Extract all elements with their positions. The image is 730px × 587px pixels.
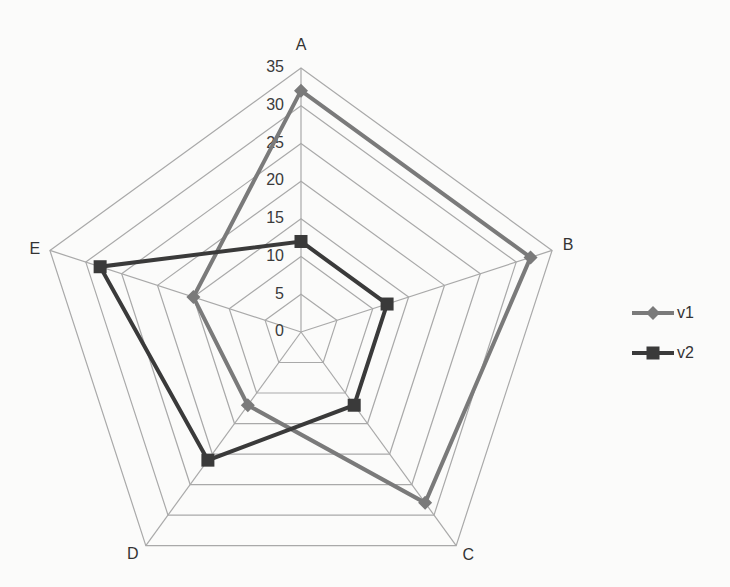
axis-tick-label: 30	[266, 96, 284, 113]
series-line-v2	[100, 241, 387, 460]
axis-tick-labels: 05101520253035	[266, 58, 284, 339]
axis-spoke	[50, 250, 301, 332]
category-label-e: E	[30, 240, 41, 257]
data-point-v2	[381, 298, 394, 311]
axis-tick-label: 20	[266, 171, 284, 188]
axis-tick-label: 0	[275, 322, 284, 339]
series-v2	[94, 235, 394, 467]
category-label-b: B	[563, 236, 574, 253]
data-point-v2	[295, 235, 308, 248]
data-point-v2	[348, 399, 361, 412]
radar-chart-canvas: 05101520253035 ABCDE v1v2	[0, 0, 730, 587]
radar-chart: 05101520253035 ABCDE v1v2	[0, 0, 730, 587]
axis-tick-label: 15	[266, 209, 284, 226]
legend-marker-v1	[646, 306, 660, 320]
series-line-v1	[193, 91, 530, 503]
legend-label: v1	[677, 304, 694, 321]
axis-tick-label: 35	[266, 58, 284, 75]
legend-item-v1: v1	[632, 304, 694, 321]
axis-tick-label: 5	[275, 285, 284, 302]
category-label-c: C	[462, 546, 474, 563]
data-point-v2	[94, 260, 107, 273]
legend-marker-v2	[647, 347, 660, 360]
legend: v1v2	[632, 304, 694, 361]
axis-tick-label: 10	[266, 247, 284, 264]
data-point-v1	[186, 290, 200, 304]
category-label-a: A	[296, 36, 307, 53]
category-label-d: D	[127, 545, 139, 562]
legend-label: v2	[677, 344, 694, 361]
axis-spoke	[301, 332, 456, 546]
series-v1	[186, 84, 537, 510]
axis-spoke	[146, 332, 301, 546]
legend-item-v2: v2	[632, 344, 694, 361]
grid-layer	[50, 68, 552, 546]
series-layer	[94, 84, 538, 510]
data-point-v2	[201, 454, 214, 467]
